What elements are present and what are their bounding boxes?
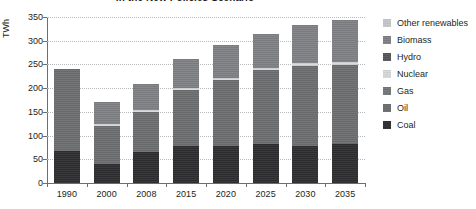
- x-tick-mark: [166, 183, 167, 187]
- bar-series-container: [47, 17, 365, 183]
- bar-group[interactable]: [213, 17, 239, 183]
- bar-segment-oil[interactable]: [253, 70, 279, 144]
- x-tick-label: 2035: [335, 189, 355, 199]
- legend-item[interactable]: Other renewables: [383, 14, 476, 31]
- bar-segment-coal[interactable]: [332, 144, 358, 183]
- bar-segment-biomass[interactable]: [94, 102, 120, 124]
- y-tick-label: 50: [33, 154, 43, 164]
- x-tick-label: 2025: [256, 189, 276, 199]
- bar-segment-coal[interactable]: [133, 152, 159, 183]
- x-tick-mark: [246, 183, 247, 187]
- legend-item[interactable]: Biomass: [383, 31, 476, 48]
- bar-group[interactable]: [332, 17, 358, 183]
- bar-group[interactable]: [94, 17, 120, 183]
- x-tick-mark: [47, 183, 48, 187]
- y-tick-label: 300: [28, 36, 43, 46]
- legend-swatch-icon: [383, 121, 391, 129]
- stacked-bar-chart: in the New Policies Scenario TWh 0501001…: [0, 0, 476, 209]
- bar-segment-coal[interactable]: [173, 146, 199, 183]
- bar-segment-oil[interactable]: [94, 126, 120, 164]
- chart-title: in the New Policies Scenario: [0, 0, 370, 2]
- bar-segment-coal[interactable]: [54, 151, 80, 183]
- x-tick-label: 2015: [176, 189, 196, 199]
- bar-segment-coal[interactable]: [253, 144, 279, 183]
- bar-segment-nuclear[interactable]: [292, 63, 318, 66]
- legend-item[interactable]: Coal: [383, 116, 476, 133]
- y-tick-label: 200: [28, 83, 43, 93]
- bar-segment-nuclear[interactable]: [332, 62, 358, 65]
- legend-item[interactable]: Nuclear: [383, 65, 476, 82]
- x-tick-mark: [286, 183, 287, 187]
- bar-segment-biomass[interactable]: [253, 34, 279, 68]
- bar-segment-oil[interactable]: [332, 65, 358, 144]
- legend-label: Nuclear: [397, 69, 428, 79]
- legend-label: Coal: [397, 120, 416, 130]
- x-tick-mark: [206, 183, 207, 187]
- legend-item[interactable]: Hydro: [383, 48, 476, 65]
- legend-item[interactable]: Oil: [383, 99, 476, 116]
- bar-group[interactable]: [133, 17, 159, 183]
- legend-swatch-icon: [383, 36, 391, 44]
- x-tick-mark: [87, 183, 88, 187]
- y-tick-label: 350: [28, 12, 43, 22]
- x-tick-label: 2000: [97, 189, 117, 199]
- legend-swatch-icon: [383, 19, 391, 27]
- bar-segment-coal[interactable]: [213, 146, 239, 183]
- x-tick-label: 2008: [136, 189, 156, 199]
- bar-segment-nuclear[interactable]: [133, 110, 159, 112]
- x-tick-label: 2030: [295, 189, 315, 199]
- bar-segment-oil[interactable]: [213, 80, 239, 145]
- bar-segment-biomass[interactable]: [213, 45, 239, 77]
- bar-segment-coal[interactable]: [94, 164, 120, 183]
- legend-label: Biomass: [397, 35, 432, 45]
- legend-label: Other renewables: [397, 18, 468, 28]
- bar-segment-nuclear[interactable]: [213, 78, 239, 80]
- x-tick-label: 1990: [57, 189, 77, 199]
- bar-segment-biomass[interactable]: [292, 25, 318, 63]
- legend-label: Oil: [397, 103, 408, 113]
- bar-segment-biomass[interactable]: [173, 59, 199, 87]
- chart-legend: Other renewablesBiomassHydroNuclearGasOi…: [383, 14, 476, 133]
- y-axis-label: TWh: [1, 19, 11, 38]
- bar-group[interactable]: [173, 17, 199, 183]
- legend-label: Gas: [397, 86, 414, 96]
- y-tick-label: 100: [28, 131, 43, 141]
- bar-group[interactable]: [54, 17, 80, 183]
- plot-area: 050100150200250300350: [47, 17, 365, 183]
- bar-segment-biomass[interactable]: [332, 20, 358, 62]
- bar-segment-oil[interactable]: [173, 90, 199, 146]
- bar-segment-nuclear[interactable]: [253, 68, 279, 70]
- bar-group[interactable]: [253, 17, 279, 183]
- bar-segment-biomass[interactable]: [133, 84, 159, 110]
- y-tick-label: 0: [38, 178, 43, 188]
- legend-label: Hydro: [397, 52, 421, 62]
- bar-segment-nuclear[interactable]: [173, 88, 199, 90]
- x-tick-label: 2020: [216, 189, 236, 199]
- bar-segment-oil[interactable]: [292, 66, 318, 146]
- x-tick-mark: [127, 183, 128, 187]
- legend-item[interactable]: Gas: [383, 82, 476, 99]
- y-tick-label: 250: [28, 59, 43, 69]
- x-tick-mark: [325, 183, 326, 187]
- bar-segment-coal[interactable]: [292, 146, 318, 183]
- y-tick-label: 150: [28, 107, 43, 117]
- bar-group[interactable]: [292, 17, 318, 183]
- bar-segment-oil[interactable]: [133, 112, 159, 152]
- legend-swatch-icon: [383, 87, 391, 95]
- x-tick-mark: [365, 183, 366, 187]
- legend-swatch-icon: [383, 53, 391, 61]
- legend-swatch-icon: [383, 104, 391, 112]
- bar-segment-oil[interactable]: [54, 69, 80, 151]
- bar-segment-nuclear[interactable]: [94, 124, 120, 126]
- legend-swatch-icon: [383, 70, 391, 78]
